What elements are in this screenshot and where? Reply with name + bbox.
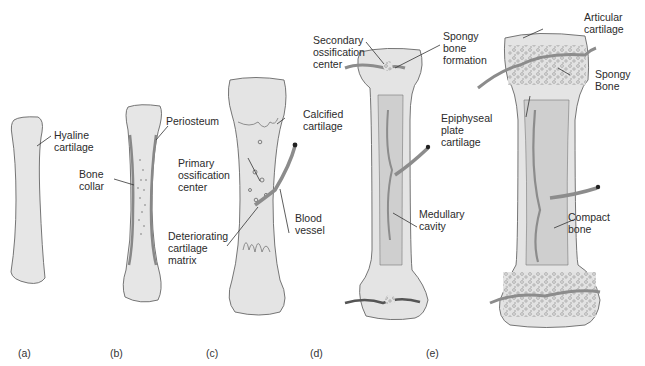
label-compact-bone: Compact bone — [568, 211, 610, 235]
bone-development-diagram: Hyaline cartilage Periosteum Bone collar… — [0, 0, 645, 366]
bone-e — [478, 33, 600, 327]
label-spongy-bone-formation: Spongy bone formation — [443, 30, 487, 66]
label-epiphyseal-plate-cartilage: Epiphyseal plate cartilage — [441, 112, 492, 148]
panel-label-d: (d) — [310, 347, 323, 359]
bone-a — [11, 117, 45, 284]
label-secondary-ossification-center: Secondary ossification center — [313, 34, 365, 70]
label-primary-ossification-center: Primary ossification center — [178, 157, 230, 193]
label-deteriorating-cartilage-matrix: Deteriorating cartilage matrix — [168, 230, 228, 266]
panel-label-c: (c) — [206, 347, 218, 359]
label-hyaline-cartilage: Hyaline cartilage — [54, 129, 94, 153]
bone-c — [228, 78, 297, 316]
label-periosteum: Periosteum — [166, 115, 219, 127]
label-calcified-cartilage: Calcified cartilage — [303, 108, 343, 132]
bone-d — [345, 48, 430, 319]
bone-b — [123, 105, 161, 302]
panel-label-b: (b) — [110, 347, 123, 359]
label-blood-vessel: Blood vessel — [295, 212, 325, 236]
label-medullary-cavity: Medullary cavity — [419, 208, 465, 232]
label-articular-cartilage: Articular cartilage — [584, 11, 624, 35]
label-bone-collar: Bone collar — [79, 168, 104, 192]
label-spongy-bone: Spongy Bone — [595, 68, 631, 92]
panel-label-a: (a) — [18, 347, 31, 359]
panel-label-e: (e) — [426, 347, 439, 359]
